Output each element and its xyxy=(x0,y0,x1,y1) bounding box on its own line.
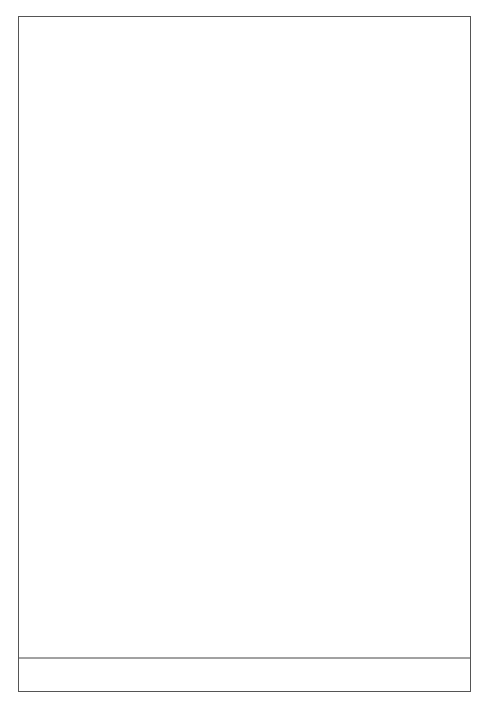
plot-frame xyxy=(19,17,471,692)
nmr-spectrum-chart xyxy=(0,0,484,706)
